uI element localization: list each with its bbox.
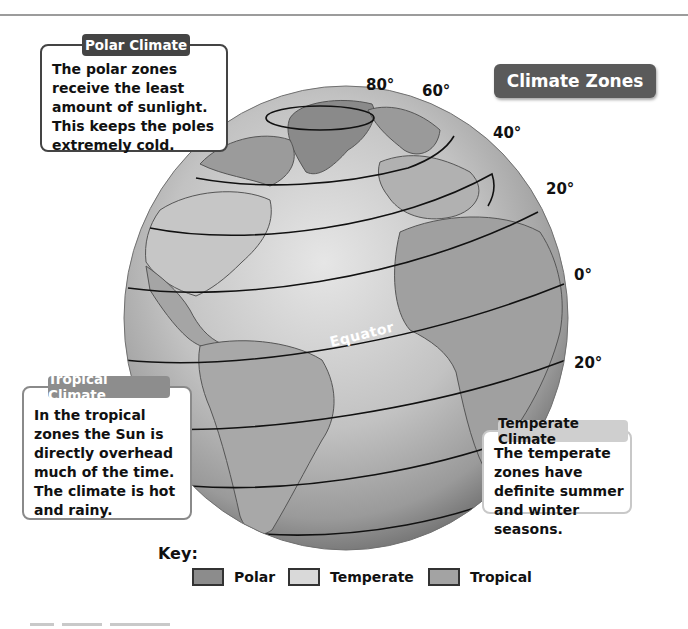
polar-climate-text: The polar zones receive the least amount… [52, 60, 230, 155]
latitude-label-80n: 80° [366, 76, 394, 94]
latitude-label-20s: 20° [574, 354, 602, 372]
temperate-climate-text: The temperate zones have definite summer… [494, 444, 634, 539]
polar-climate-heading: Polar Climate [82, 34, 190, 56]
key-title: Key: [158, 544, 198, 563]
key-label-polar: Polar [234, 569, 275, 585]
temperate-climate-callout: Temperate Climate The temperate zones ha… [482, 430, 632, 514]
polar-swatch [192, 568, 224, 586]
latitude-label-60n: 60° [422, 82, 450, 100]
tropical-climate-heading: Tropical Climate [48, 376, 170, 398]
latitude-label-20n: 20° [546, 180, 574, 198]
latitude-label-0: 0° [574, 266, 592, 284]
polar-climate-callout: Polar Climate The polar zones receive th… [40, 44, 228, 152]
latitude-label-40n: 40° [493, 124, 521, 142]
key-item-temperate: Temperate [288, 568, 414, 586]
tropical-climate-callout: Tropical Climate In the tropical zones t… [22, 386, 192, 520]
key-item-polar: Polar [192, 568, 275, 586]
key-label-tropical: Tropical [470, 569, 532, 585]
tropical-climate-text: In the tropical zones the Sun is directl… [34, 406, 194, 520]
temperate-swatch [288, 568, 320, 586]
tropical-swatch [428, 568, 460, 586]
climate-zones-title: Climate Zones [494, 64, 656, 98]
key-label-temperate: Temperate [330, 569, 414, 585]
temperate-climate-heading: Temperate Climate [498, 420, 628, 442]
key-item-tropical: Tropical [428, 568, 532, 586]
cut-off-text-line [30, 614, 230, 628]
